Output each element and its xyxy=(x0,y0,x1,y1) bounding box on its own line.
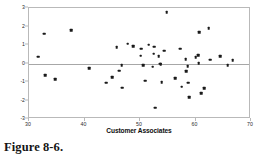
y-tick-label: -1 xyxy=(13,77,25,85)
data-point xyxy=(151,66,154,69)
data-point xyxy=(120,64,123,67)
data-point xyxy=(174,77,177,80)
data-point xyxy=(209,58,212,61)
data-point xyxy=(226,64,229,67)
data-point xyxy=(153,53,156,56)
data-point xyxy=(185,70,188,73)
zero-reference-line xyxy=(29,64,249,65)
data-point xyxy=(140,48,143,51)
data-point xyxy=(219,55,222,58)
data-point xyxy=(43,33,46,36)
data-point xyxy=(187,81,190,84)
data-point xyxy=(44,74,47,77)
data-point xyxy=(153,45,156,48)
x-tick-mark xyxy=(84,118,85,121)
figure-8-6: Standardized Residual 3210-1-2-3 3040506… xyxy=(0,0,263,160)
data-point xyxy=(54,78,57,81)
figure-caption: Figure 8-6. xyxy=(4,140,63,155)
data-point xyxy=(132,45,135,48)
x-axis-title: Customer Associates xyxy=(28,127,250,134)
x-tick-mark xyxy=(28,118,29,121)
data-point xyxy=(198,31,201,34)
data-point xyxy=(37,56,40,59)
data-point xyxy=(200,92,203,95)
data-point xyxy=(144,79,147,82)
data-point xyxy=(148,44,151,47)
data-point xyxy=(139,54,142,57)
plot-area xyxy=(29,8,249,117)
data-point xyxy=(184,58,187,61)
data-point xyxy=(126,43,129,46)
data-point xyxy=(70,29,73,32)
data-point xyxy=(159,63,162,66)
data-point xyxy=(163,49,166,52)
data-point xyxy=(198,62,201,65)
data-point xyxy=(154,106,157,109)
data-point xyxy=(121,86,124,89)
data-point xyxy=(179,48,182,51)
y-tick-label: -2 xyxy=(13,96,25,104)
y-tick-label: 0 xyxy=(13,59,25,67)
x-tick-mark xyxy=(195,118,196,121)
data-point xyxy=(142,64,145,67)
data-point xyxy=(118,69,121,72)
data-point xyxy=(197,54,200,57)
data-point xyxy=(165,11,168,14)
data-point xyxy=(231,59,234,62)
plot-frame xyxy=(28,7,250,118)
data-point xyxy=(105,81,108,84)
data-point xyxy=(111,76,114,79)
data-point xyxy=(158,55,161,58)
y-tick-label: 3 xyxy=(13,3,25,11)
data-point xyxy=(188,96,191,99)
data-point xyxy=(186,65,189,68)
x-tick-mark xyxy=(250,118,251,121)
x-tick-mark xyxy=(139,118,140,121)
data-point xyxy=(208,27,211,30)
data-point xyxy=(160,81,163,84)
data-point xyxy=(180,86,183,89)
data-point xyxy=(203,87,206,90)
y-tick-label: 1 xyxy=(13,40,25,48)
data-point xyxy=(88,67,91,70)
y-tick-label: 2 xyxy=(13,22,25,30)
data-point xyxy=(115,46,118,49)
